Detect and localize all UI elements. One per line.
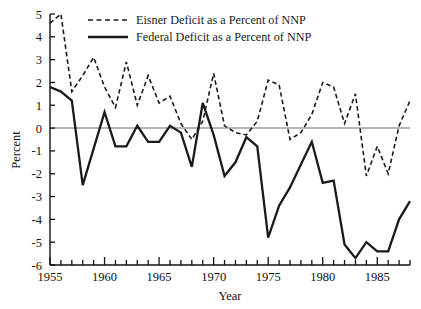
- y-tick-label: -1: [32, 144, 42, 158]
- x-tick-label: 1985: [365, 270, 390, 284]
- x-tick-label: 1975: [256, 270, 281, 284]
- x-axis-title: Year: [218, 289, 242, 303]
- y-tick-label: 0: [36, 122, 42, 136]
- y-tick-label: 2: [36, 76, 42, 90]
- x-tick-label: 1955: [38, 270, 63, 284]
- x-tick-label: 1960: [92, 270, 117, 284]
- y-tick-label: 1: [36, 99, 42, 113]
- y-tick-label: -3: [32, 190, 42, 204]
- x-tick-label: 1980: [310, 270, 335, 284]
- y-tick-label: -2: [32, 167, 42, 181]
- x-tick-label: 1965: [147, 270, 172, 284]
- legend-label-federal: Federal Deficit as a Percent of NNP: [136, 30, 312, 44]
- chart-background: [0, 0, 421, 309]
- x-tick-label: 1970: [201, 270, 226, 284]
- deficit-line-chart: 543210-1-2-3-4-5-6 195519601965197019751…: [0, 0, 421, 309]
- y-tick-label: 3: [36, 53, 42, 67]
- y-tick-label: 5: [36, 8, 42, 22]
- y-axis-title: Percent: [9, 131, 23, 169]
- legend-label-eisner: Eisner Deficit as a Percent of NNP: [136, 13, 306, 27]
- y-tick-label: -5: [32, 236, 42, 250]
- chart-figure: 543210-1-2-3-4-5-6 195519601965197019751…: [0, 0, 421, 309]
- y-tick-label: 4: [36, 30, 43, 44]
- y-tick-label: -4: [32, 213, 43, 227]
